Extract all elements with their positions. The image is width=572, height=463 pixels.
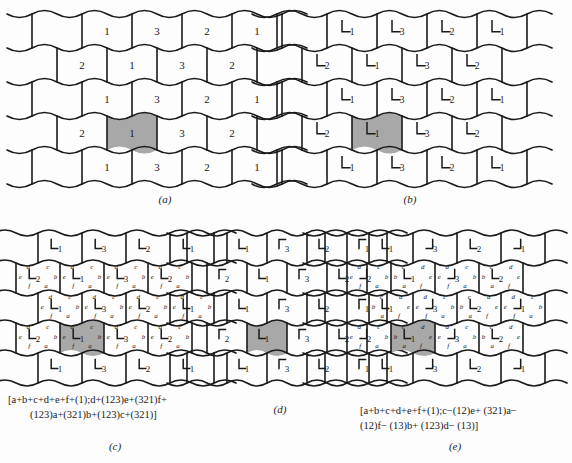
edge-letter: f [398, 312, 401, 320]
edge-letter: a [132, 282, 136, 290]
cell-number: 3 [154, 93, 160, 105]
edge-letter: e [429, 333, 432, 341]
edge-letter: a [468, 312, 472, 320]
edge-letter: a [380, 312, 384, 320]
cell-number: 2 [325, 129, 330, 139]
cell-number: 3 [285, 244, 290, 254]
cell-number: 3 [285, 304, 290, 314]
cell-number: 2 [146, 304, 151, 314]
cell-number: 1 [375, 129, 380, 139]
edge-letter: b [98, 273, 102, 281]
panel-a: 13212132132121321321 [55, 8, 285, 188]
cell-number: 2 [325, 61, 330, 71]
panel-c-label: (c) [90, 440, 140, 452]
cell-number: 1 [389, 244, 394, 254]
edge-letter: d [509, 263, 513, 271]
panel-d-label: (d) [255, 403, 305, 415]
edge-letter: d [71, 323, 75, 331]
cell-number: 2 [450, 163, 455, 173]
cell-number: 3 [433, 304, 438, 314]
edge-letter: d [27, 263, 31, 271]
edge-letter: f [94, 312, 97, 320]
edge-letter: c [468, 293, 472, 301]
cell-number: 2 [204, 161, 210, 173]
cell-number: 2 [225, 274, 230, 284]
edge-letter: d [137, 293, 141, 301]
panel-a-label: (a) [140, 193, 190, 205]
cell-number: 1 [350, 163, 355, 173]
edge-letter: a [44, 282, 48, 290]
edge-letter: c [134, 323, 138, 331]
cell-number: 1 [80, 334, 85, 344]
edge-letter: c [490, 263, 494, 271]
cell-number: 3 [455, 334, 460, 344]
edge-letter: e [407, 303, 410, 311]
edge-letter: e [438, 273, 441, 281]
edge-letter: b [394, 273, 398, 281]
cell-number: 1 [265, 274, 270, 284]
edge-letter: f [359, 342, 362, 350]
edge-letter: b [372, 303, 376, 311]
edge-letter: c [112, 293, 116, 301]
cell-number: 1 [500, 27, 505, 37]
cell-number: 2 [367, 334, 372, 344]
edge-letter: e [151, 273, 154, 281]
edge-letter: b [394, 333, 398, 341]
cell-number: 1 [129, 59, 135, 71]
edge-letter: b [539, 303, 543, 311]
cell-number: 1 [104, 25, 110, 37]
cell-number: 1 [411, 274, 416, 284]
edge-letter: b [473, 273, 477, 281]
cell-number: 3 [305, 334, 310, 344]
edge-letter: f [359, 282, 362, 290]
edge-letter: f [420, 282, 423, 290]
edge-letter: e [429, 273, 432, 281]
edge-letter: b [186, 273, 190, 281]
cell-number: 2 [146, 364, 151, 374]
edge-letter: e [107, 273, 110, 281]
cell-number: 1 [389, 364, 394, 374]
edge-letter: d [421, 323, 425, 331]
edge-letter: e [416, 303, 419, 311]
cell-number: 2 [499, 334, 504, 344]
cell-number: 1 [411, 334, 416, 344]
cell-number: 1 [254, 25, 260, 37]
cell-number: 3 [425, 129, 430, 139]
cell-number: 1 [104, 93, 110, 105]
edge-letter: f [513, 312, 516, 320]
edge-letter: e [350, 333, 353, 341]
edge-letter: c [377, 263, 381, 271]
edge-letter: e [495, 303, 498, 311]
cell-number: 1 [500, 95, 505, 105]
cell-number: 1 [375, 61, 380, 71]
cell-number: 3 [102, 304, 107, 314]
edge-letter: a [176, 282, 180, 290]
edge-letter: e [517, 273, 520, 281]
edge-letter: a [375, 342, 379, 350]
cell-number: 1 [350, 27, 355, 37]
cell-number: 1 [389, 304, 394, 314]
edge-letter: d [509, 323, 513, 331]
edge-letter: f [447, 342, 450, 350]
cell-number: 3 [400, 163, 405, 173]
edge-letter: f [72, 282, 75, 290]
cell-number: 2 [499, 274, 504, 284]
edge-letter: a [132, 342, 136, 350]
edge-letter: f [160, 342, 163, 350]
edge-letter: d [159, 323, 163, 331]
cell-number: 1 [190, 304, 195, 314]
edge-letter: e [517, 333, 520, 341]
edge-letter: a [198, 312, 202, 320]
edge-letter: d [159, 263, 163, 271]
cell-number: 2 [79, 59, 85, 71]
edge-letter: c [46, 323, 50, 331]
edge-letter: f [486, 312, 489, 320]
edge-letter: b [142, 333, 146, 341]
edge-letter: e [41, 303, 44, 311]
edge-letter: c [443, 293, 447, 301]
edge-letter: a [490, 282, 494, 290]
panel-c-formula-line-1: [a+b+c+d+e+f+(1);d+(123)e+(321)f+ [8, 392, 258, 407]
edge-letter: d [399, 293, 403, 301]
cell-number: 3 [124, 334, 129, 344]
edge-letter: a [176, 342, 180, 350]
